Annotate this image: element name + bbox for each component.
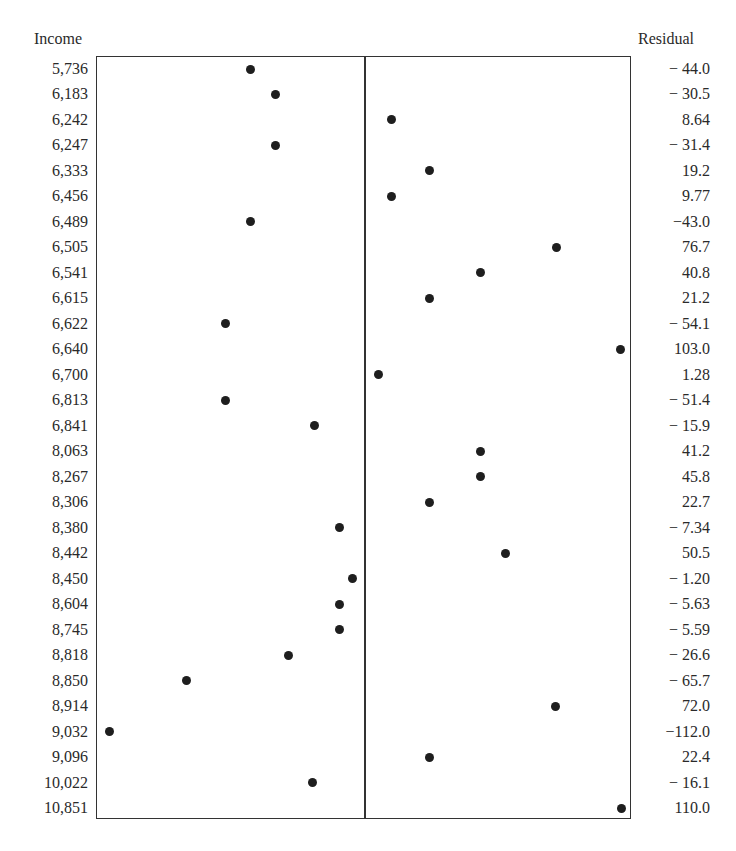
data-point <box>425 166 434 175</box>
residual-label: 9.77 <box>638 187 710 205</box>
residual-label: 110.0 <box>638 799 710 817</box>
residual-label: 50.5 <box>638 544 710 562</box>
residual-label: − 30.5 <box>638 85 710 103</box>
residual-label: − 44.0 <box>638 60 710 78</box>
data-point <box>284 651 293 660</box>
income-label: 5,736 <box>52 60 88 78</box>
income-label: 8,380 <box>52 519 88 537</box>
residual-label: − 15.9 <box>638 417 710 435</box>
residual-label: 45.8 <box>638 468 710 486</box>
residual-label: 76.7 <box>638 238 710 256</box>
income-label: 6,183 <box>52 85 88 103</box>
data-point <box>105 727 114 736</box>
residual-label: − 16.1 <box>638 774 710 792</box>
income-label: 6,541 <box>52 264 88 282</box>
income-label: 6,700 <box>52 366 88 384</box>
data-point <box>476 472 485 481</box>
income-label: 8,450 <box>52 570 88 588</box>
data-point <box>308 778 317 787</box>
data-point <box>617 804 626 813</box>
data-point <box>425 294 434 303</box>
residual-label: − 65.7 <box>638 672 710 690</box>
residual-label: 19.2 <box>638 162 710 180</box>
data-point <box>271 90 280 99</box>
income-label: 6,813 <box>52 391 88 409</box>
residual-header: Residual <box>638 30 694 48</box>
residual-label: − 31.4 <box>638 136 710 154</box>
residual-label: 72.0 <box>638 697 710 715</box>
income-label: 8,850 <box>52 672 88 690</box>
data-point <box>271 141 280 150</box>
income-label: 8,267 <box>52 468 88 486</box>
income-label: 6,333 <box>52 162 88 180</box>
data-point <box>387 115 396 124</box>
data-point <box>387 192 396 201</box>
data-point <box>552 243 561 252</box>
residual-label: 22.4 <box>638 748 710 766</box>
zero-center-line <box>364 56 366 819</box>
data-point <box>551 702 560 711</box>
income-label: 10,851 <box>44 799 88 817</box>
data-point <box>221 396 230 405</box>
residual-label: −112.0 <box>638 723 710 741</box>
residual-label: − 54.1 <box>638 315 710 333</box>
data-point <box>348 574 357 583</box>
data-point <box>335 523 344 532</box>
data-point <box>374 370 383 379</box>
income-label: 8,063 <box>52 442 88 460</box>
income-label: 6,505 <box>52 238 88 256</box>
income-label: 8,604 <box>52 595 88 613</box>
data-point <box>476 447 485 456</box>
income-header: Income <box>34 30 82 48</box>
income-label: 6,622 <box>52 315 88 333</box>
data-point <box>501 549 510 558</box>
income-label: 8,818 <box>52 646 88 664</box>
residual-label: 22.7 <box>638 493 710 511</box>
income-label: 6,489 <box>52 213 88 231</box>
data-point <box>182 676 191 685</box>
data-point <box>616 345 625 354</box>
data-point <box>425 498 434 507</box>
residual-label: − 1.20 <box>638 570 710 588</box>
residual-label: 8.64 <box>638 111 710 129</box>
income-label: 10,022 <box>44 774 88 792</box>
residual-label: 103.0 <box>638 340 710 358</box>
income-label: 8,306 <box>52 493 88 511</box>
income-label: 6,615 <box>52 289 88 307</box>
income-label: 9,032 <box>52 723 88 741</box>
residual-label: − 26.6 <box>638 646 710 664</box>
income-label: 8,442 <box>52 544 88 562</box>
residual-label: −43.0 <box>638 213 710 231</box>
data-point <box>221 319 230 328</box>
data-point <box>425 753 434 762</box>
data-point <box>335 625 344 634</box>
residual-label: 40.8 <box>638 264 710 282</box>
income-label: 9,096 <box>52 748 88 766</box>
residual-label: 1.28 <box>638 366 710 384</box>
income-label: 8,914 <box>52 697 88 715</box>
income-label: 6,242 <box>52 111 88 129</box>
residual-label: 41.2 <box>638 442 710 460</box>
data-point <box>335 600 344 609</box>
data-point <box>246 217 255 226</box>
residual-label: − 5.59 <box>638 621 710 639</box>
data-point <box>246 65 255 74</box>
income-label: 6,640 <box>52 340 88 358</box>
residual-label: − 7.34 <box>638 519 710 537</box>
income-label: 6,247 <box>52 136 88 154</box>
data-point <box>310 421 319 430</box>
data-point <box>476 268 485 277</box>
residual-label: 21.2 <box>638 289 710 307</box>
income-label: 6,456 <box>52 187 88 205</box>
residual-label: − 5.63 <box>638 595 710 613</box>
residual-label: − 51.4 <box>638 391 710 409</box>
income-label: 6,841 <box>52 417 88 435</box>
income-label: 8,745 <box>52 621 88 639</box>
